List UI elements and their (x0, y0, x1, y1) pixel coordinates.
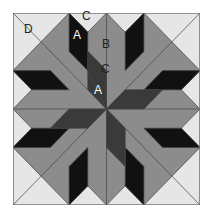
label-b: B (102, 37, 110, 51)
label-a-center: A (94, 83, 102, 97)
label-a-top: A (73, 28, 81, 42)
label-c-center: C (101, 62, 110, 76)
label-d: D (24, 22, 33, 36)
label-c-top: C (82, 9, 91, 23)
